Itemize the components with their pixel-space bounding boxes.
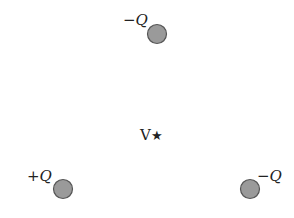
charge-bottom-left: +Q <box>27 167 73 199</box>
charge-diagram: −Q V ★ +Q −Q <box>0 0 294 218</box>
charge-top-label: −Q <box>123 11 148 29</box>
charge-bottom-right: −Q <box>241 167 282 199</box>
point-v: V ★ <box>139 126 163 144</box>
charge-bottom-right-label: −Q <box>257 167 282 185</box>
charge-bottom-left-circle <box>54 180 73 199</box>
star-icon: ★ <box>151 128 163 143</box>
charge-bottom-left-label: +Q <box>27 167 52 185</box>
charge-top-circle <box>148 25 167 44</box>
charge-top: −Q <box>123 11 167 44</box>
